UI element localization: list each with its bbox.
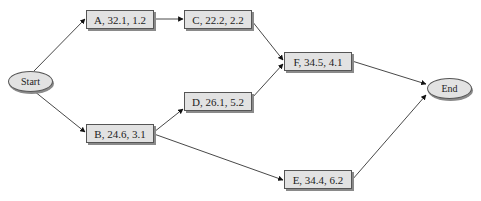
edge-c-f	[252, 21, 283, 60]
node-a: A, 32.1, 1.2	[86, 10, 154, 29]
edge-b-e	[154, 134, 283, 180]
node-f-label: F, 34.5, 4.1	[293, 56, 342, 68]
edge-b-d	[154, 109, 183, 132]
node-b-label: B, 24.6, 3.1	[94, 128, 145, 140]
node-a-label: A, 32.1, 1.2	[94, 14, 146, 26]
node-e-label: E, 34.4, 6.2	[293, 174, 344, 186]
node-c-label: C, 22.2, 2.2	[192, 14, 243, 26]
node-d-label: D, 26.1, 5.2	[192, 96, 244, 108]
edge-start-a	[34, 19, 85, 71]
node-e: E, 34.4, 6.2	[284, 170, 352, 189]
node-f: F, 34.5, 4.1	[284, 52, 352, 71]
node-start-label: Start	[21, 76, 40, 87]
node-b: B, 24.6, 3.1	[86, 124, 154, 143]
node-start: Start	[8, 71, 53, 92]
node-end-label: End	[441, 83, 457, 94]
edge-f-end	[352, 61, 426, 84]
edge-start-b	[34, 91, 85, 132]
edge-d-f	[252, 64, 283, 98]
edge-e-end	[352, 95, 426, 180]
node-c: C, 22.2, 2.2	[184, 10, 252, 29]
node-end: End	[427, 78, 472, 99]
node-d: D, 26.1, 5.2	[184, 92, 252, 111]
